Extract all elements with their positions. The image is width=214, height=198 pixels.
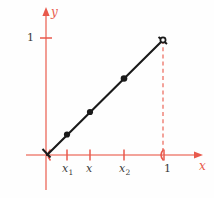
function-graph-figure: y x 1 x1 x x2 1 [0,0,214,198]
y-tick-label-1: 1 [27,32,34,43]
graph-canvas [0,0,214,198]
identity-line [47,40,163,155]
x-tick-label-x1-text: x [62,162,68,175]
point-x1 [64,131,70,137]
x-tick-label-x1: x1 [62,163,73,174]
x-tick-label-one: 1 [164,163,171,174]
y-axis-arrowhead [42,7,49,16]
x-tick-label-x2-text: x [119,162,125,175]
x-tick-label-x: x [86,163,92,174]
point-x [87,109,93,115]
x-axis-label-text: x [199,159,206,173]
x-tick-label-x1-subscript: 1 [69,168,74,177]
x-tick-label-x2: x2 [119,163,130,174]
x-axis-arrowhead [194,151,203,158]
point-x2 [121,75,128,82]
x-tick-label-one-text: 1 [164,162,171,175]
y-axis-label-text: y [51,5,58,19]
x-axis-label: x [199,160,206,172]
line-end-open-marker [160,37,165,42]
y-tick-label-1-text: 1 [27,31,34,44]
x-tick-label-x-text: x [86,162,92,175]
x-tick-label-x2-subscript: 2 [126,168,131,177]
y-axis-label: y [51,6,58,18]
